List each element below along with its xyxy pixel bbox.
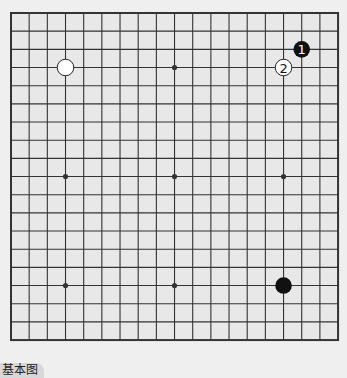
star-point: [172, 65, 177, 70]
star-point: [172, 174, 177, 179]
move-number: 2: [279, 61, 287, 76]
star-point: [63, 174, 68, 179]
star-point: [63, 283, 68, 288]
star-point: [172, 283, 177, 288]
move-number: 1: [298, 42, 306, 57]
white-stone[interactable]: [57, 59, 74, 76]
diagram-title: 基本图: [0, 363, 44, 378]
go-board: 12: [0, 0, 347, 360]
black-stone[interactable]: [275, 277, 292, 294]
star-point: [281, 174, 286, 179]
